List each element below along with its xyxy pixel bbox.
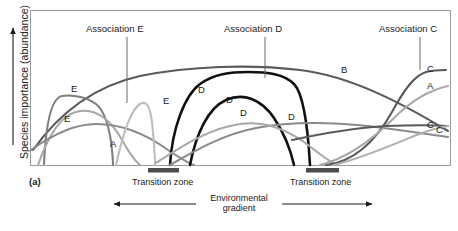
association-c-label: Association C [379, 24, 437, 34]
curve-label-e1: E [71, 84, 77, 94]
transition-zone-bar-right [306, 168, 339, 173]
x-axis-label: Environmental gradient [199, 193, 279, 214]
x-axis-label-line1: Environmental [210, 193, 268, 203]
panel-label: (a) [29, 177, 41, 187]
association-e-label: Association E [86, 24, 144, 34]
curve-label-d4: D [288, 112, 295, 122]
curve-label-e2: E [64, 114, 70, 124]
x-axis-label-line2: gradient [223, 203, 256, 213]
curve-label-d1: D [198, 85, 205, 95]
curve-label-d2: D [226, 95, 233, 105]
figure-panel: Species importance (abundance) [0, 0, 458, 231]
curve-label-a-right: A [427, 81, 433, 91]
transition-zone-label-left: Transition zone [132, 178, 193, 187]
association-d-label: Association D [224, 24, 282, 34]
transition-zone-label-right: Transition zone [290, 178, 351, 187]
curve-label-c-top: C [427, 64, 434, 74]
curve-label-e3: E [163, 96, 169, 106]
transition-zone-bar-left [148, 168, 179, 173]
curve-label-b: B [341, 65, 347, 75]
curve-label-a-left: A [110, 139, 116, 149]
curve-label-d3: D [240, 108, 247, 118]
curve-label-c-low2: C [436, 125, 443, 135]
curve-label-c-low1: C [427, 120, 434, 130]
